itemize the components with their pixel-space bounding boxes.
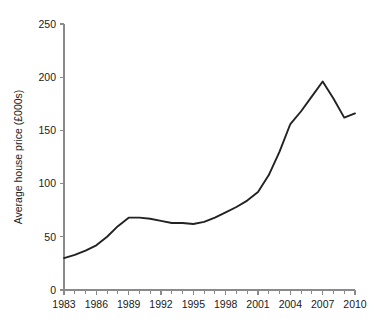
line-chart: 050100150200250 198319861989199219951998… — [0, 0, 375, 329]
y-tick-label: 100 — [38, 177, 56, 189]
x-tick-label: 1992 — [149, 298, 173, 310]
y-tick-label: 150 — [38, 124, 56, 136]
x-tick-label: 2001 — [246, 298, 270, 310]
y-tick-label: 0 — [50, 284, 56, 296]
x-tick-label: 1995 — [182, 298, 206, 310]
x-tick-label: 2004 — [279, 298, 303, 310]
x-tick-label: 2010 — [343, 298, 367, 310]
y-tick-label: 50 — [44, 231, 56, 243]
y-axis-title: Average house price (£000s) — [12, 90, 24, 225]
data-series — [64, 81, 355, 258]
x-axis-ticks: 1983198619891992199519982001200420072010 — [52, 290, 367, 310]
y-axis-ticks: 050100150200250 — [38, 18, 64, 296]
x-tick-label: 1998 — [214, 298, 238, 310]
y-tick-label: 250 — [38, 18, 56, 30]
series-line — [64, 81, 355, 258]
y-tick-label: 200 — [38, 71, 56, 83]
axes — [64, 24, 355, 290]
chart-container: 050100150200250 198319861989199219951998… — [0, 0, 375, 329]
y-axis-title-text: Average house price (£000s) — [12, 90, 24, 225]
x-tick-label: 1986 — [85, 298, 109, 310]
x-tick-label: 1983 — [52, 298, 76, 310]
x-tick-label: 2007 — [311, 298, 335, 310]
x-tick-label: 1989 — [117, 298, 141, 310]
